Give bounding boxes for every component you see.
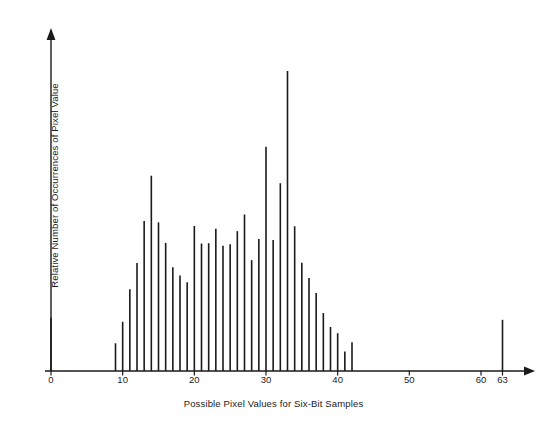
bar-series (51, 71, 503, 371)
x-tick-label: 30 (251, 374, 281, 385)
x-tick-label: 50 (394, 374, 424, 385)
x-tick-label: 63 (488, 374, 518, 385)
histogram-figure: 010203040506063 Relative Number of Occur… (0, 0, 547, 427)
chart-canvas (0, 0, 547, 427)
x-axis-label: Possible Pixel Values for Six-Bit Sample… (0, 398, 547, 409)
x-tick-label: 0 (36, 374, 66, 385)
x-tick-label: 20 (179, 374, 209, 385)
x-tick-label: 10 (108, 374, 138, 385)
x-tick-label: 40 (323, 374, 353, 385)
y-axis-label: Relative Number of Occurrences of Pixel … (49, 36, 60, 336)
x-axis-arrowhead (524, 367, 535, 376)
